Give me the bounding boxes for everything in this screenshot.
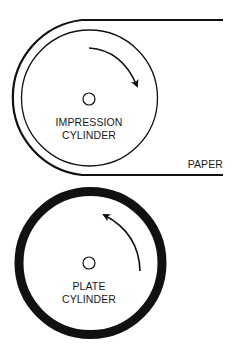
plate-cylinder-outline xyxy=(19,192,162,335)
counter-clockwise-rotation-arrow-icon xyxy=(104,215,140,271)
paper-label: PAPER xyxy=(188,158,224,170)
impression-cylinder: IMPRESSION CYLINDER xyxy=(22,30,158,166)
paper-web xyxy=(13,20,223,175)
printing-cylinders-diagram: IMPRESSION CYLINDER PAPER PLATE CYLINDER xyxy=(0,0,241,354)
impression-cylinder-outline xyxy=(22,30,158,166)
plate-cylinder-label-line2: CYLINDER xyxy=(62,293,116,305)
impression-cylinder-label-line2: CYLINDER xyxy=(62,129,116,141)
impression-cylinder-axle xyxy=(83,93,95,105)
clockwise-rotation-arrow-icon xyxy=(89,48,137,86)
plate-cylinder-label-line1: PLATE xyxy=(73,280,106,292)
plate-cylinder: PLATE CYLINDER xyxy=(19,192,162,335)
impression-cylinder-label-line1: IMPRESSION xyxy=(56,116,123,128)
plate-cylinder-axle xyxy=(83,257,95,269)
